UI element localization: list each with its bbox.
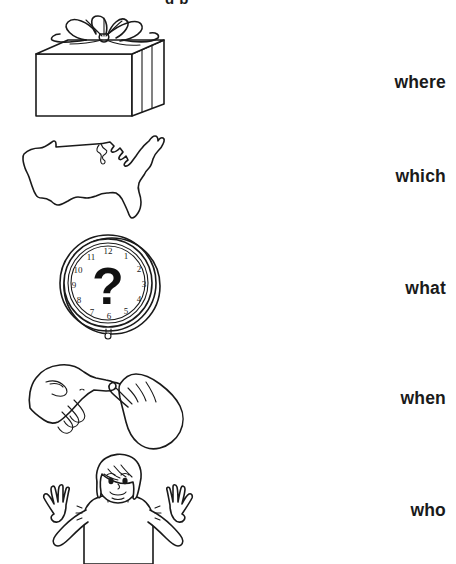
worksheet-row: where <box>0 14 456 124</box>
usa-map-illustration <box>18 128 198 224</box>
hands-sign-illustration <box>24 350 204 452</box>
word-label-who: who <box>410 500 446 521</box>
svg-text:3: 3 <box>142 279 147 289</box>
svg-text:12: 12 <box>104 246 113 256</box>
svg-text:8: 8 <box>77 295 82 305</box>
svg-text:10: 10 <box>74 265 84 275</box>
svg-text:9: 9 <box>72 280 77 290</box>
gift-box-illustration <box>24 14 184 126</box>
clock-question-mark: ? <box>92 257 124 315</box>
worksheet-row: who <box>0 452 456 564</box>
clock-illustration: 12 1 2 3 4 5 6 7 8 9 10 11 ? <box>58 228 178 348</box>
worksheet-page: g p <box>0 0 456 564</box>
worksheet-row: 12 1 2 3 4 5 6 7 8 9 10 11 ? what <box>0 228 456 348</box>
cut-off-header-text: g p <box>165 0 295 4</box>
word-label-where: where <box>394 72 446 93</box>
svg-text:4: 4 <box>137 294 142 304</box>
svg-text:2: 2 <box>137 264 142 274</box>
svg-text:5: 5 <box>124 306 129 316</box>
word-label-which: which <box>395 166 446 187</box>
svg-text:1: 1 <box>124 251 129 261</box>
word-label-when: when <box>400 388 446 409</box>
worksheet-row: which <box>0 128 456 224</box>
worksheet-row: when <box>0 350 456 450</box>
shrugging-person-illustration <box>24 452 204 564</box>
word-label-what: what <box>405 278 446 299</box>
